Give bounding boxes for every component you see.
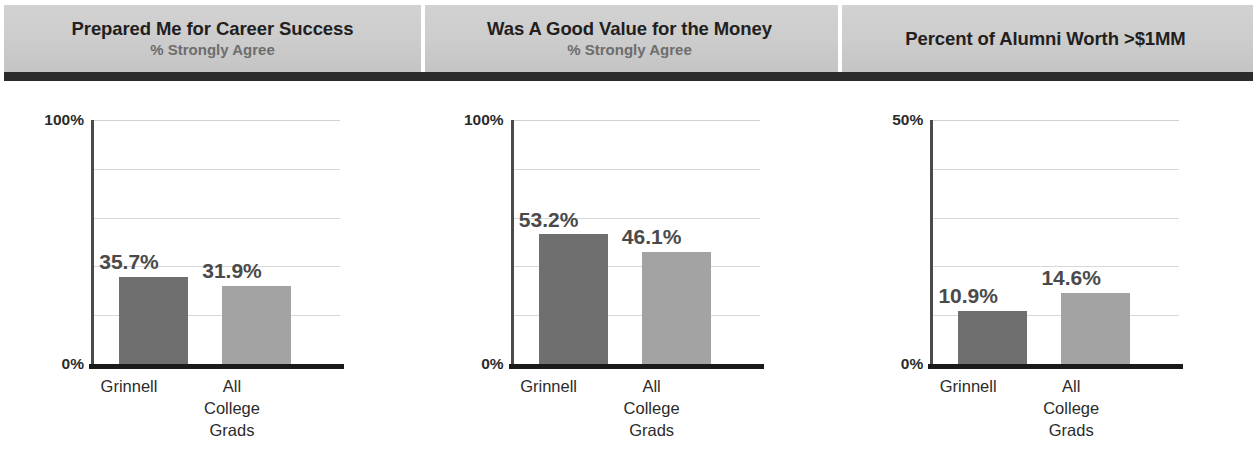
charts-row: 100% 0% 35.7% 31.9% Grinnell All Coll — [0, 88, 1259, 474]
header-cell-career-success: Prepared Me for Career Success % Strongl… — [4, 5, 421, 72]
header-cell-alumni-worth: Percent of Alumni Worth >$1MM — [838, 5, 1253, 72]
x-label-2-grinnell: Grinnell — [494, 376, 604, 398]
y-tick-label-3-max: 50% — [892, 111, 923, 129]
x-labels-2: Grinnell All College Grads — [511, 376, 763, 472]
header-divider-1 — [421, 5, 425, 72]
x-axis-baseline-3 — [928, 364, 1183, 369]
x-label-line: All — [1016, 376, 1126, 398]
y-axis-line-3 — [930, 120, 933, 364]
x-labels-1: Grinnell All College Grads — [91, 376, 343, 472]
bar-1-all-college-grads — [222, 286, 291, 364]
gridline-3-30 — [930, 218, 1179, 219]
header-rule — [4, 72, 1253, 81]
y-tick-label-2-max: 100% — [464, 111, 504, 129]
chart-panel-good-value: 100% 0% 53.2% 46.1% Grinnell All Coll — [420, 88, 840, 474]
bar-1-grinnell — [119, 277, 188, 364]
panel-title-1: Prepared Me for Career Success — [72, 19, 354, 40]
x-label-line: College — [597, 398, 707, 420]
gridline-3-50 — [930, 120, 1179, 121]
gridline-2-100 — [511, 120, 760, 121]
infographic-sheet: Prepared Me for Career Success % Strongl… — [0, 0, 1259, 474]
bar-value-label-2-grinnell: 53.2% — [494, 208, 604, 232]
header-band: Prepared Me for Career Success % Strongl… — [4, 5, 1253, 72]
plot-area-1: 100% 0% 35.7% 31.9% — [91, 112, 340, 364]
x-label-line: College — [177, 398, 287, 420]
x-label-line: Grinnell — [913, 376, 1023, 398]
bar-3-grinnell — [958, 311, 1027, 364]
x-label-2-all-college-grads: All College Grads — [597, 376, 707, 442]
x-axis-baseline-2 — [509, 364, 764, 369]
bar-value-label-3-all-college-grads: 14.6% — [1016, 266, 1126, 290]
x-label-3-grinnell: Grinnell — [913, 376, 1023, 398]
panel-subtitle-2: % Strongly Agree — [567, 41, 691, 60]
panel-title-3: Percent of Alumni Worth >$1MM — [905, 29, 1185, 50]
x-label-1-all-college-grads: All College Grads — [177, 376, 287, 442]
x-label-line: Grads — [177, 420, 287, 442]
x-label-3-all-college-grads: All College Grads — [1016, 376, 1126, 442]
header-cell-good-value: Was A Good Value for the Money % Strongl… — [421, 5, 838, 72]
gridline-1-80 — [91, 169, 340, 170]
plot-area-2: 100% 0% 53.2% 46.1% — [511, 112, 760, 364]
y-axis-line-2 — [511, 120, 514, 364]
gridline-3-40 — [930, 169, 1179, 170]
x-label-line: College — [1016, 398, 1126, 420]
bar-value-label-1-grinnell: 35.7% — [74, 250, 184, 274]
y-tick-label-1-max: 100% — [44, 111, 84, 129]
x-label-line: Grads — [1016, 420, 1126, 442]
chart-panel-career-success: 100% 0% 35.7% 31.9% Grinnell All Coll — [0, 88, 420, 474]
x-label-line: Grinnell — [494, 376, 604, 398]
bar-value-label-3-grinnell: 10.9% — [913, 284, 1023, 308]
x-axis-baseline-1 — [89, 364, 344, 369]
gridline-1-100 — [91, 120, 340, 121]
bar-2-all-college-grads — [642, 252, 711, 365]
y-tick-label-3-min: 0% — [901, 355, 923, 373]
panel-title-2: Was A Good Value for the Money — [487, 19, 772, 40]
plot-area-3: 50% 0% 10.9% 14.6% — [930, 112, 1179, 364]
x-label-line: Grinnell — [74, 376, 184, 398]
y-tick-label-2-min: 0% — [481, 355, 503, 373]
x-label-1-grinnell: Grinnell — [74, 376, 184, 398]
header-divider-2 — [838, 5, 842, 72]
gridline-2-80 — [511, 169, 760, 170]
bar-2-grinnell — [539, 234, 608, 364]
bar-3-all-college-grads — [1061, 293, 1130, 364]
y-tick-label-1-min: 0% — [62, 355, 84, 373]
bar-value-label-2-all-college-grads: 46.1% — [597, 225, 707, 249]
chart-panel-alumni-worth: 50% 0% 10.9% 14.6% Grinnell All Colle — [839, 88, 1259, 474]
gridline-1-60 — [91, 218, 340, 219]
x-labels-3: Grinnell All College Grads — [930, 376, 1182, 472]
x-label-line: All — [177, 376, 287, 398]
x-label-line: All — [597, 376, 707, 398]
x-label-line: Grads — [597, 420, 707, 442]
panel-subtitle-1: % Strongly Agree — [150, 41, 274, 60]
y-axis-line-1 — [91, 120, 94, 364]
bar-value-label-1-all-college-grads: 31.9% — [177, 259, 287, 283]
